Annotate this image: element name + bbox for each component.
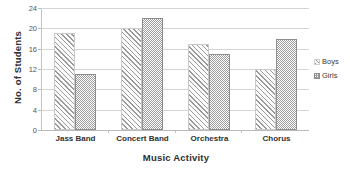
x-category-label: Concert Band bbox=[109, 134, 176, 143]
y-tick-mark-20 bbox=[38, 28, 41, 29]
plot-area: 04812162024 bbox=[41, 8, 309, 130]
bar-girls-jass-band bbox=[75, 74, 96, 130]
bar-boys-chorus bbox=[255, 69, 276, 130]
y-axis-title: No. of Students bbox=[12, 13, 23, 123]
bar-boys-jass-band bbox=[54, 33, 75, 130]
y-tick-label-16: 16 bbox=[29, 44, 37, 53]
x-tick-mark bbox=[108, 130, 109, 133]
bar-group bbox=[176, 8, 243, 130]
legend-label: Boys bbox=[322, 57, 339, 66]
x-tick-mark bbox=[241, 130, 242, 133]
bar-groups bbox=[42, 8, 309, 130]
y-tick-label-8: 8 bbox=[33, 85, 37, 94]
y-tick-mark-12 bbox=[38, 69, 41, 70]
legend-item-girls[interactable]: Girls bbox=[314, 70, 350, 81]
bar-boys-concert-band bbox=[121, 28, 142, 130]
plot-wrapper: 04812162024 bbox=[41, 8, 309, 130]
bar-girls-chorus bbox=[276, 39, 297, 131]
y-tick-label-4: 4 bbox=[33, 105, 37, 114]
legend-label: Girls bbox=[322, 71, 337, 80]
legend-swatch-girls-icon bbox=[314, 73, 320, 79]
bar-group bbox=[242, 8, 309, 130]
x-axis-category-labels: Jass BandConcert BandOrchestraChorus bbox=[42, 134, 310, 143]
y-tick-label-20: 20 bbox=[29, 24, 37, 33]
x-axis-title: Music Activity bbox=[42, 152, 310, 163]
legend-item-boys[interactable]: Boys bbox=[314, 56, 350, 67]
bar-group bbox=[42, 8, 109, 130]
y-tick-label-0: 0 bbox=[33, 126, 37, 135]
bar-boys-orchestra bbox=[188, 44, 209, 130]
bar-girls-orchestra bbox=[209, 54, 230, 130]
x-category-label: Chorus bbox=[243, 134, 310, 143]
y-tick-mark-0 bbox=[38, 130, 41, 131]
y-tick-mark-24 bbox=[38, 8, 41, 9]
y-tick-mark-8 bbox=[38, 89, 41, 90]
y-tick-label-12: 12 bbox=[29, 65, 37, 74]
x-tick-mark bbox=[175, 130, 176, 133]
x-category-label: Jass Band bbox=[42, 134, 109, 143]
y-tick-mark-4 bbox=[38, 110, 41, 111]
bar-group bbox=[109, 8, 176, 130]
legend-swatch-boys-icon bbox=[314, 59, 320, 65]
y-tick-label-24: 24 bbox=[29, 4, 37, 13]
bar-girls-concert-band bbox=[142, 18, 163, 130]
y-tick-mark-16 bbox=[38, 49, 41, 50]
x-category-label: Orchestra bbox=[176, 134, 243, 143]
chart-legend: BoysGirls bbox=[314, 56, 350, 84]
bar-chart: No. of Students 04812162024 Jass BandCon… bbox=[0, 0, 350, 172]
